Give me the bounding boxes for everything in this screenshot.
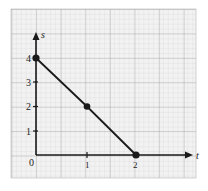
chart-svg: s t 0 1 2 1 2 3 4 [0, 0, 208, 191]
graph-figure: s t 0 1 2 1 2 3 4 [0, 0, 208, 191]
y-tick-label-2: 2 [26, 101, 31, 112]
x-tick-label-2: 2 [133, 160, 138, 170]
x-tick-label-1: 1 [85, 160, 90, 170]
graph-paper [11, 9, 196, 178]
y-tick-label-4: 4 [26, 53, 31, 64]
origin-label: 0 [29, 157, 34, 168]
data-point-2-0 [132, 151, 139, 158]
y-tick-label-1: 1 [26, 126, 31, 137]
data-point-0-4 [32, 54, 39, 61]
x-axis-label: t [196, 150, 199, 161]
data-point-1-2 [84, 103, 91, 110]
y-axis-label: s [41, 29, 45, 40]
y-tick-label-3: 3 [26, 77, 31, 88]
